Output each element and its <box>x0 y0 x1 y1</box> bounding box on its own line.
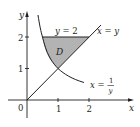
label-x-equals-y: x = y <box>97 26 119 36</box>
x-tick-label-1: 1 <box>56 104 61 114</box>
origin-label: 0 <box>18 103 23 113</box>
region-d-shading <box>43 37 90 69</box>
x-axis-arrow-icon <box>128 98 134 102</box>
x-tick-label-2: 2 <box>87 104 92 114</box>
y-axis-arrow-icon <box>25 11 29 17</box>
label-x-equals-1-over-y: x = <box>90 80 105 90</box>
region-label-d: D <box>55 47 63 57</box>
x-axis-label: x <box>129 103 134 113</box>
y-axis-label: y <box>18 10 25 20</box>
y-tick-label-1: 1 <box>18 64 23 74</box>
y-tick-label-2: 2 <box>18 33 23 43</box>
hyperbola-numerator: 1 <box>109 77 113 85</box>
region-diagram: y x 0 1 2 1 2 y = 2 x = y D x = 1 y <box>0 0 140 127</box>
hyperbola-denominator: y <box>108 87 114 95</box>
label-y-equals-2: y = 2 <box>54 26 78 36</box>
